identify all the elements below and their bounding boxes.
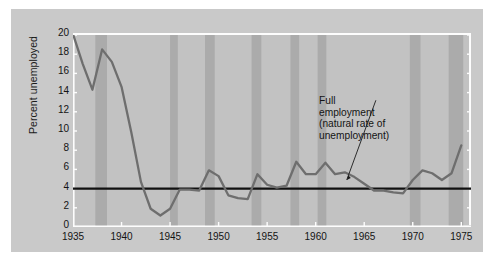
annotation-line-3: (natural rate of: [319, 118, 439, 130]
x-tick-label: 1935: [51, 231, 95, 242]
x-tick-label: 1950: [197, 231, 241, 242]
x-axis-tick-labels: 193519401945195019551960196519701975: [73, 231, 471, 247]
chart-figure: Percent unemployed 02468101214161820 193…: [0, 0, 494, 269]
y-tick-label: 16: [43, 66, 69, 76]
y-tick-label: 20: [43, 28, 69, 38]
y-axis-title: Percent unemployed: [27, 0, 39, 170]
y-tick-label: 12: [43, 105, 69, 115]
x-tick-label: 1940: [100, 231, 144, 242]
x-tick-label: 1970: [391, 231, 435, 242]
x-tick-label: 1965: [342, 231, 386, 242]
recession-band: [449, 35, 464, 227]
x-tick-label: 1945: [148, 231, 192, 242]
annotation-label: Full employment (natural rate of unemplo…: [319, 95, 439, 141]
recession-band: [205, 35, 215, 227]
y-tick-label: 0: [43, 220, 69, 230]
y-tick-label: 14: [43, 86, 69, 96]
annotation-line-4: unemployment): [319, 130, 439, 142]
y-tick-label: 4: [43, 182, 69, 192]
x-tick-label: 1975: [439, 231, 483, 242]
y-tick-label: 10: [43, 124, 69, 134]
y-tick-label: 8: [43, 143, 69, 153]
annotation-line-1: Full: [319, 95, 439, 107]
recession-band: [95, 35, 107, 227]
annotation-line-2: employment: [319, 107, 439, 119]
recession-band: [290, 35, 299, 227]
x-tick-label: 1960: [294, 231, 338, 242]
chart-card: Percent unemployed 02468101214161820 193…: [11, 9, 483, 252]
y-tick-label: 18: [43, 47, 69, 57]
recession-band: [252, 35, 262, 227]
x-tick-label: 1955: [245, 231, 289, 242]
y-tick-label: 2: [43, 201, 69, 211]
y-tick-label: 6: [43, 162, 69, 172]
y-axis-tick-labels: 02468101214161820: [41, 33, 69, 225]
